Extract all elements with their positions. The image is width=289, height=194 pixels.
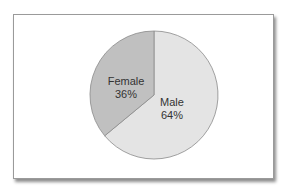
slice-label-female-name: Female xyxy=(108,75,145,87)
pie-chart: Female 36% Male 64% xyxy=(0,0,289,194)
pie-slices xyxy=(90,31,218,159)
slice-label-female-value: 36% xyxy=(115,88,137,100)
slice-label-male-value: 64% xyxy=(161,109,183,121)
slice-label-male-name: Male xyxy=(160,96,184,108)
